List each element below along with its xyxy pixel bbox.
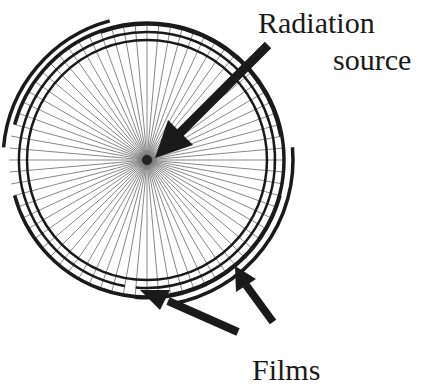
ray-line: [147, 160, 183, 293]
ray-line: [147, 160, 205, 285]
radiation-film-diagram: Radiation source Films: [0, 0, 437, 388]
ray-line: [147, 160, 284, 172]
ray-line: [135, 23, 147, 160]
ray-line: [10, 160, 147, 172]
radiation-label-line1: Radiation: [258, 6, 375, 39]
ray-line: [147, 23, 159, 160]
ray-line: [135, 160, 147, 297]
film-arrow-left-shaft: [168, 301, 238, 332]
films-label: Films: [252, 353, 320, 386]
ray-line: [111, 27, 147, 160]
film-arrow-left-head: [140, 290, 170, 310]
radiation-source-point: [142, 155, 152, 165]
ray-line: [14, 160, 147, 196]
ray-line: [89, 160, 147, 285]
ray-line: [111, 160, 147, 293]
film-arrow-right-shaft: [246, 285, 273, 322]
ray-line: [89, 35, 147, 160]
ray-line: [22, 160, 147, 218]
radiation-label-line2: source: [333, 43, 411, 76]
ray-line: [14, 124, 147, 160]
ray-line: [147, 160, 272, 218]
ray-line: [147, 160, 159, 297]
film-arrow-right: [235, 266, 273, 322]
ray-line: [22, 102, 147, 160]
ray-line: [147, 160, 280, 196]
film-arrow-left: [140, 290, 238, 332]
ray-line: [10, 148, 147, 160]
